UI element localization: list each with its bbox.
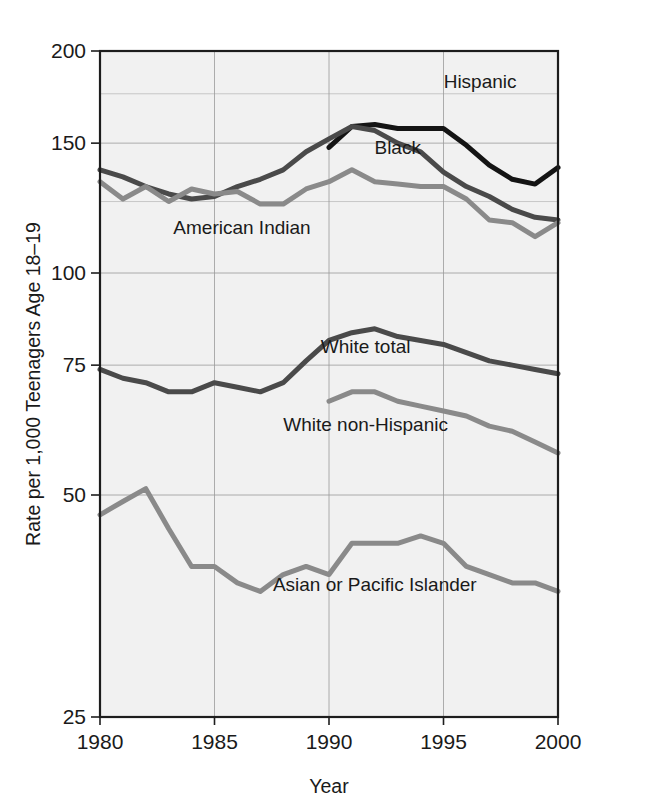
series-label-asian-or-pacific-islander: Asian or Pacific Islander [273, 574, 477, 595]
y-axis-ticks: 255075100150200 [51, 39, 100, 728]
x-tick-label: 2000 [535, 730, 582, 753]
y-tick-label: 200 [51, 39, 86, 62]
series-label-hispanic: Hispanic [444, 71, 517, 92]
y-tick-label: 50 [63, 483, 86, 506]
x-tick-label: 1990 [306, 730, 353, 753]
x-tick-label: 1980 [77, 730, 124, 753]
y-tick-label: 100 [51, 261, 86, 284]
x-axis-ticks: 19801985199019952000 [77, 717, 582, 753]
series-label-white-non-hispanic: White non-Hispanic [283, 414, 448, 435]
x-axis-title: Year [309, 775, 349, 797]
y-tick-label: 75 [63, 353, 86, 376]
y-tick-label: 150 [51, 131, 86, 154]
series-label-white-total: White total [321, 336, 411, 357]
x-tick-label: 1985 [191, 730, 238, 753]
series-label-american-indian: American Indian [173, 217, 310, 238]
y-axis-title: Rate per 1,000 Teenagers Age 18–19 [22, 222, 44, 546]
series-label-black: Black [374, 137, 421, 158]
x-tick-label: 1995 [420, 730, 467, 753]
y-tick-label: 25 [63, 705, 86, 728]
figure-container: 255075100150200 19801985199019952000 His… [0, 0, 671, 809]
line-chart: 255075100150200 19801985199019952000 His… [0, 0, 671, 809]
